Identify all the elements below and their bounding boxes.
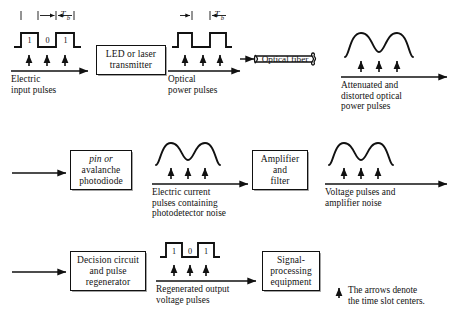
legend-note: The arrows denote the time slot centers. — [348, 285, 448, 307]
bit-label-1: 1 — [27, 36, 31, 45]
voltage-pulses-waveform — [329, 143, 393, 165]
attenuated-optical-waveform — [345, 33, 413, 57]
signal-proc-line-3: equipment — [267, 277, 315, 288]
caption-voltage-pulses: Voltage pulses and amplifier noise — [325, 187, 441, 208]
electric-current-timeslot-arrows — [171, 168, 205, 179]
attenuated-timeslot-arrows — [361, 61, 397, 72]
amplifier-line-2: and — [258, 165, 302, 176]
electric-current-waveform — [156, 143, 220, 165]
photodiode-line-3: photodiode — [76, 176, 126, 187]
period-sub-row1-b: b — [221, 14, 225, 21]
period-sub-row1-a: b — [67, 14, 71, 21]
photodiode-line-2: avalanche — [76, 165, 126, 176]
period-label-row1-b: T — [214, 9, 220, 19]
optical-power-timeslot-arrows — [185, 55, 220, 66]
regen-bit-1: 1 — [172, 247, 176, 256]
transmitter-line-2: transmitter — [103, 60, 159, 71]
caption-optical-power: Optical power pulses — [168, 74, 254, 95]
caption-electric-input: Electric input pulses — [11, 74, 101, 95]
decision-circuit-box[interactable]: Decision circuitand pulseregenerator — [70, 251, 146, 291]
signal-proc-line-1: Signal- — [267, 255, 315, 266]
optical-fiber-label: Optical fiber — [258, 53, 312, 65]
transmitter-line-1: LED or laser — [103, 49, 159, 60]
figure-canvas: T b 1 0 1 T b — [0, 0, 452, 324]
amplifier-line-3: filter — [258, 176, 302, 187]
decision-line-1: Decision circuit — [74, 255, 142, 266]
amplifier-box[interactable]: Amplifierandfilter — [252, 150, 308, 190]
signal-proc-line-2: processing — [267, 266, 315, 277]
bit-label-2: 1 — [63, 36, 67, 45]
caption-electric-current: Electric current pulses containing photo… — [152, 187, 256, 219]
amplifier-line-1: Amplifier — [258, 154, 302, 165]
regen-bit-2: 1 — [204, 247, 208, 256]
caption-regenerated-output: Regenerated output voltage pulses — [156, 284, 266, 305]
diagram-vector-layer: T b 1 0 1 T b — [0, 0, 452, 324]
bit-label-0: 0 — [45, 36, 49, 45]
caption-attenuated-optical: Attenuated and distorted optical power p… — [341, 80, 445, 112]
regen-bit-0: 0 — [188, 247, 192, 256]
electric-input-timeslot-arrows — [29, 55, 65, 66]
voltage-pulses-timeslot-arrows — [344, 168, 378, 179]
period-label-row1-a: T — [60, 9, 66, 19]
decision-line-2: and pulse — [74, 266, 142, 277]
regenerated-timeslot-arrows — [174, 265, 206, 276]
signal-processing-box[interactable]: Signal-processingequipment — [262, 251, 320, 291]
photodiode-box[interactable]: pin oravalanchephotodiode — [70, 150, 132, 190]
decision-line-3: regenerator — [74, 277, 142, 288]
transmitter-box[interactable]: LED or lasertransmitter — [96, 45, 166, 75]
photodiode-line-1: pin or — [76, 154, 126, 165]
